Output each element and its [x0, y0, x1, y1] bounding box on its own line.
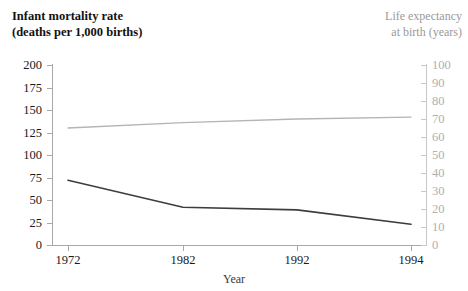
series-lines — [0, 0, 468, 291]
series-line-infant-mortality — [68, 180, 411, 224]
chart-figure: Infant mortality rate (deaths per 1,000 … — [0, 0, 468, 291]
x-axis-title: Year — [0, 272, 468, 287]
series-line-life-expectancy — [68, 117, 411, 128]
